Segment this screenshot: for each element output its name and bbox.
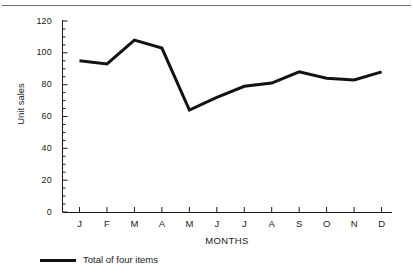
- axis-lines: [63, 20, 393, 213]
- y-tick-label: 60: [22, 112, 52, 121]
- x-tick-label: M: [126, 219, 142, 229]
- legend-item-label: Total of four items: [83, 255, 158, 265]
- x-tick-label: N: [346, 219, 362, 229]
- x-axis-title: MONTHS: [62, 236, 392, 246]
- y-tick-label: 100: [22, 48, 52, 57]
- x-tick-label: A: [264, 219, 280, 229]
- y-tick-label: 80: [22, 80, 52, 89]
- data-series-line: [80, 40, 382, 110]
- x-tick-label: A: [154, 219, 170, 229]
- legend-line-swatch: [40, 259, 76, 262]
- chart-legend: Total of four items: [40, 255, 158, 265]
- y-tick-label: 120: [22, 17, 52, 26]
- y-axis-title: Unit sales: [16, 64, 26, 144]
- x-tick-label: S: [291, 219, 307, 229]
- x-tick-label: M: [181, 219, 197, 229]
- x-tick-label: F: [99, 219, 115, 229]
- y-tick-label: 40: [22, 144, 52, 153]
- x-axis-ticks: [80, 207, 382, 212]
- x-tick-label: J: [236, 219, 252, 229]
- x-tick-label: D: [374, 219, 390, 229]
- y-tick-label: 20: [22, 176, 52, 185]
- x-tick-label: O: [319, 219, 335, 229]
- x-tick-label: J: [209, 219, 225, 229]
- x-tick-label: J: [72, 219, 88, 229]
- y-axis-ticks: [63, 21, 68, 212]
- line-chart-figure: Unit sales MONTHS 020406080100120 JFMAMJ…: [0, 0, 413, 277]
- y-tick-label: 0: [22, 208, 52, 217]
